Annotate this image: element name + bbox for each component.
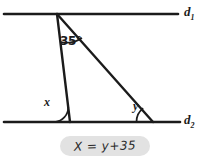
triangle-hypotenuse bbox=[57, 14, 153, 122]
triangle-left-leg bbox=[57, 14, 70, 122]
line-label-d2: d2 bbox=[184, 113, 195, 130]
y-angle-label: y bbox=[133, 100, 138, 112]
x-angle-label: x bbox=[44, 96, 50, 108]
apex-angle-label: 35° bbox=[60, 35, 82, 47]
line-label-d1: d1 bbox=[184, 5, 195, 22]
x-angle-arc bbox=[55, 107, 68, 122]
answer-equation: X = y+35 bbox=[60, 135, 150, 157]
